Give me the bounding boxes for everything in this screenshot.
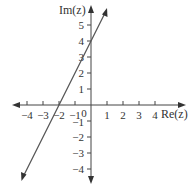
y-tick-label: 4 xyxy=(79,35,85,47)
x-tick-label: 1 xyxy=(104,109,110,121)
line-upper-arrow-icon xyxy=(102,8,108,17)
line-lower-arrow-icon xyxy=(21,172,27,181)
plotted-line xyxy=(23,13,105,177)
x-tick-label: −3 xyxy=(37,109,49,121)
x-tick-label: 4 xyxy=(152,109,158,121)
x-tick-label: −4 xyxy=(21,109,33,121)
y-tick-label: −1 xyxy=(72,116,84,128)
x-tick-label: 2 xyxy=(120,109,126,121)
real-axis-label: Re(z) xyxy=(161,107,188,121)
imaginary-axis-up-arrow-icon xyxy=(88,5,94,13)
y-tick-labels: 5 4 3 2 1 −1 −2 −3 −4 xyxy=(72,19,84,175)
x-tick-labels: −4 −3 −2 −1 0 1 2 3 4 xyxy=(21,107,158,121)
x-tick-label: −2 xyxy=(53,109,65,121)
complex-plane-diagram: −4 −3 −2 −1 0 1 2 3 4 5 4 3 2 1 −1 −2 −3… xyxy=(0,0,193,192)
y-tick-label: −2 xyxy=(72,131,84,143)
y-tick-label: −4 xyxy=(72,163,84,175)
imaginary-axis-down-arrow-icon xyxy=(88,176,94,184)
y-tick-label: 5 xyxy=(79,19,85,31)
imaginary-axis-label: Im(z) xyxy=(59,3,86,17)
y-tick-label: −3 xyxy=(72,147,84,159)
y-tick-label: 2 xyxy=(79,67,85,79)
y-tick-label: 1 xyxy=(79,83,85,95)
x-tick-label: 3 xyxy=(136,109,142,121)
real-axis-left-arrow-icon xyxy=(12,102,20,108)
